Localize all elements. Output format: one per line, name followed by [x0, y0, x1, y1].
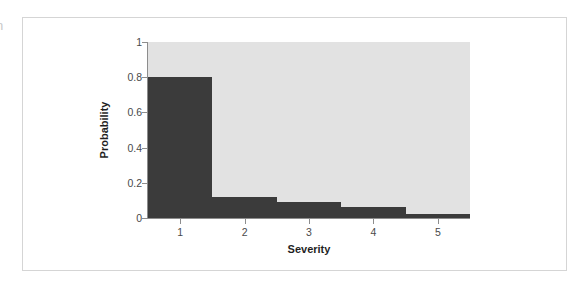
bar-severity-2 [212, 197, 276, 218]
bar-severity-3 [277, 202, 341, 218]
bar-severity-1 [148, 77, 212, 218]
x-tick-mark-2 [245, 219, 246, 224]
x-axis-title: Severity [148, 243, 470, 255]
y-tick-mark-0 [142, 218, 147, 219]
x-tick-mark-3 [309, 219, 310, 224]
x-tick-label-5: 5 [418, 226, 458, 238]
y-tick-mark-3 [142, 112, 147, 113]
y-tick-label-0: 0 [98, 213, 142, 223]
y-tick-5: 1 [90, 37, 142, 47]
y-tick-label-5: 1 [98, 37, 142, 47]
y-tick-4: 0.8 [90, 72, 142, 82]
x-tick-label-3: 3 [289, 226, 329, 238]
x-tick-mark-5 [438, 219, 439, 224]
x-tick-mark-1 [180, 219, 181, 224]
y-tick-label-4: 0.8 [98, 72, 142, 82]
y-tick-label-1: 0.2 [98, 178, 142, 188]
y-axis-title: Probability [98, 102, 110, 159]
y-tick-mark-1 [142, 183, 147, 184]
y-tick-mark-4 [142, 77, 147, 78]
y-tick-mark-5 [142, 42, 147, 43]
y-tick-0: 0 [90, 213, 142, 223]
x-tick-label-4: 4 [353, 226, 393, 238]
y-tick-mark-2 [142, 148, 147, 149]
y-axis-line [147, 42, 148, 219]
bar-severity-4 [341, 207, 405, 218]
y-tick-1: 0.2 [90, 178, 142, 188]
x-tick-label-2: 2 [225, 226, 265, 238]
x-tick-label-1: 1 [160, 226, 200, 238]
probability-vs-severity-bar-chart: 0 0.2 0.4 0.6 0.8 1 1 2 3 4 5 Severity P… [0, 0, 582, 287]
x-tick-mark-4 [373, 219, 374, 224]
